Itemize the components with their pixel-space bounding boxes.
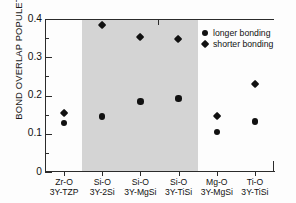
- data-point-longer-bonding: [137, 98, 143, 104]
- y-axis-minor-tick: [45, 38, 49, 39]
- legend-item: longer bonding: [198, 28, 273, 38]
- x-axis-tick: [217, 171, 218, 176]
- y-axis-minor-tick: [45, 76, 49, 77]
- data-point-longer-bonding: [252, 118, 258, 124]
- y-axis-major-tick: [45, 134, 52, 135]
- y-axis-tick-label: 0: [0, 166, 42, 177]
- x-axis-tick: [255, 171, 256, 176]
- y-axis-tick-label: 0.3: [0, 51, 42, 62]
- y-axis-minor-tick: [45, 115, 49, 116]
- y-axis-major-tick: [45, 19, 52, 20]
- data-point-longer-bonding: [175, 95, 181, 101]
- y-axis-tick-label: 0.2: [0, 89, 42, 100]
- diamond-marker-icon: [198, 39, 212, 49]
- x-axis-tick: [64, 171, 65, 176]
- y-axis-tick-label: 0.1: [0, 127, 42, 138]
- x-axis-line: [45, 171, 275, 172]
- chart-legend: longer bonding shorter bonding: [196, 26, 276, 52]
- x-label-material: 3Y-TiSi: [223, 187, 287, 197]
- y-axis-major-tick: [45, 96, 52, 97]
- legend-item-label: longer bonding: [213, 28, 270, 38]
- top-axis-tick: [158, 19, 159, 25]
- x-label-bond: Ti-O: [223, 177, 287, 187]
- legend-item-label: shorter bonding: [213, 39, 273, 49]
- chart-figure: BOND OVERLAP POPULETION 00.10.20.30.4 Zr…: [0, 0, 296, 203]
- y-axis-major-tick: [45, 172, 52, 173]
- y-axis-major-tick: [45, 57, 52, 58]
- circle-marker-icon: [198, 28, 212, 38]
- y-axis-tick-label: 0.4: [0, 13, 42, 24]
- x-axis-tick: [140, 171, 141, 176]
- x-axis-right-tick: [273, 161, 274, 172]
- x-axis-tick-label: Ti-O3Y-TiSi: [223, 177, 287, 198]
- x-axis-tick: [179, 171, 180, 176]
- legend-item: shorter bonding: [198, 39, 273, 49]
- y-axis-minor-tick: [45, 153, 49, 154]
- x-axis-tick: [102, 171, 103, 176]
